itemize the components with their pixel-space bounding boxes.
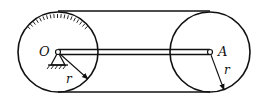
pin-o — [56, 50, 61, 55]
rod-oa — [58, 50, 210, 55]
left-pulley-hatching — [27, 14, 87, 29]
right-radius-arrow — [211, 55, 224, 90]
belt-drive-diagram: O A r r — [0, 0, 269, 100]
label-o: O — [39, 44, 50, 59]
left-radius-arrow — [60, 54, 88, 79]
label-r-left: r — [66, 72, 73, 86]
label-r-right: r — [224, 63, 231, 77]
label-a: A — [217, 44, 227, 59]
pin-a — [208, 50, 213, 55]
